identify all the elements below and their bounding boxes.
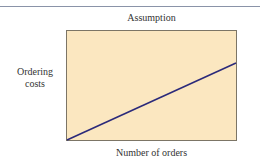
plot-panel — [67, 31, 237, 141]
y-axis-label-line1: Ordering — [6, 66, 64, 78]
diagram-title: Assumption — [66, 12, 237, 23]
plot-area — [66, 30, 237, 141]
y-axis-label-line2: costs — [6, 78, 64, 90]
y-axis-label: Ordering costs — [6, 66, 64, 90]
top-rule — [0, 6, 260, 7]
x-axis-label: Number of orders — [66, 147, 237, 158]
